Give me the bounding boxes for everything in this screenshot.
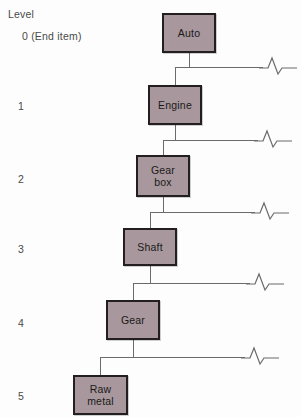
level-label-2: 2 xyxy=(18,173,24,185)
conn-gearbox-shaft-horizontal-bus xyxy=(150,212,255,213)
node-box-gear-box[interactable]: Gearbox xyxy=(136,155,190,197)
break-zigzag-icon-auto xyxy=(259,55,299,77)
node-label-line: metal xyxy=(87,395,114,408)
conn-engine-gearbox-horizontal-bus xyxy=(163,140,258,141)
node-box-raw-metal[interactable]: Rawmetal xyxy=(73,375,128,415)
node-label-raw-metal: Rawmetal xyxy=(87,383,114,408)
conn-gearbox-shaft-parent-drop xyxy=(163,197,164,212)
level-label-4: 4 xyxy=(18,317,24,329)
node-box-engine[interactable]: Engine xyxy=(148,85,202,125)
conn-auto-engine-child-drop xyxy=(175,67,176,85)
node-label-line: box xyxy=(151,176,175,189)
node-label-line: Raw xyxy=(87,383,114,396)
node-label-line: Gear xyxy=(121,314,145,327)
conn-gear-rawmetal-child-drop xyxy=(100,357,101,375)
conn-auto-engine-horizontal-bus xyxy=(175,67,263,68)
node-label-line: Shaft xyxy=(137,241,163,254)
node-label-line: Gear xyxy=(151,164,175,177)
level-label-0: 0 (End item) xyxy=(22,30,82,42)
conn-shaft-gear-child-drop xyxy=(133,283,134,300)
break-zigzag-icon-gear-box xyxy=(251,200,291,222)
level-label-1: 1 xyxy=(18,100,24,112)
node-label-gear-box: Gearbox xyxy=(151,164,175,189)
conn-gear-rawmetal-horizontal-bus xyxy=(100,357,245,358)
node-label-gear: Gear xyxy=(121,314,145,327)
node-box-shaft[interactable]: Shaft xyxy=(123,228,177,266)
node-label-shaft: Shaft xyxy=(137,241,163,254)
node-label-engine: Engine xyxy=(158,99,192,112)
product-structure-diagram: Level 0 (End item)12345 AutoEngineGearbo… xyxy=(0,0,301,417)
level-column-heading: Level xyxy=(8,8,34,20)
break-zigzag-icon-engine xyxy=(254,128,294,150)
conn-auto-engine-parent-drop xyxy=(189,53,190,67)
break-zigzag-icon-gear xyxy=(241,345,281,367)
conn-gear-rawmetal-parent-drop xyxy=(133,340,134,357)
node-label-line: Auto xyxy=(178,27,200,40)
node-label-auto: Auto xyxy=(178,27,200,40)
node-box-gear[interactable]: Gear xyxy=(106,300,160,340)
conn-engine-gearbox-child-drop xyxy=(163,140,164,155)
conn-shaft-gear-horizontal-bus xyxy=(133,283,250,284)
conn-gearbox-shaft-child-drop xyxy=(150,212,151,228)
level-label-5: 5 xyxy=(18,390,24,402)
conn-engine-gearbox-parent-drop xyxy=(175,125,176,140)
break-zigzag-icon-shaft xyxy=(246,271,286,293)
node-box-auto[interactable]: Auto xyxy=(162,13,216,53)
node-label-line: Engine xyxy=(158,99,192,112)
conn-shaft-gear-parent-drop xyxy=(150,266,151,283)
level-label-3: 3 xyxy=(18,243,24,255)
